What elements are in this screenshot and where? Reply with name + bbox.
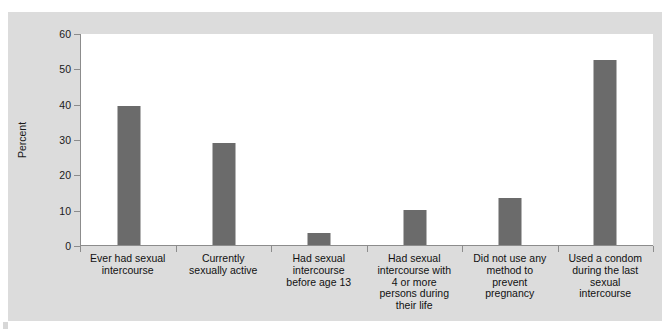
y-tick-label: 50 xyxy=(59,63,71,75)
y-tick-label: 60 xyxy=(59,28,71,40)
bar-slot xyxy=(462,34,557,245)
y-tick-label: 40 xyxy=(59,99,71,111)
x-axis-label: Ever had sexual intercourse xyxy=(80,253,176,312)
bar-slot xyxy=(176,34,271,245)
bar[interactable] xyxy=(212,143,235,245)
x-tick xyxy=(367,246,368,252)
bar[interactable] xyxy=(308,233,331,245)
y-tick-label: 10 xyxy=(59,205,71,217)
figure-panel: Percent 0102030405060 Ever had sexual in… xyxy=(8,12,662,321)
x-axis-label: Had sexual intercourse before age 13 xyxy=(271,253,367,312)
bar[interactable] xyxy=(594,60,617,245)
scan-artifact-mark xyxy=(3,322,8,329)
bar[interactable] xyxy=(498,198,521,245)
x-axis-label: Did not use any method to prevent pregna… xyxy=(462,253,558,312)
x-tick xyxy=(462,246,463,252)
y-tick-label: 20 xyxy=(59,169,71,181)
bar-series xyxy=(81,34,653,245)
x-tick xyxy=(176,246,177,252)
chart-page: Percent 0102030405060 Ever had sexual in… xyxy=(0,0,669,330)
bar[interactable] xyxy=(403,210,426,245)
x-axis-label-group: Ever had sexual intercourseCurrently sex… xyxy=(80,253,653,312)
x-axis: Ever had sexual intercourseCurrently sex… xyxy=(80,246,653,326)
bar-slot xyxy=(272,34,367,245)
bar[interactable] xyxy=(117,106,140,245)
x-axis-label: Had sexual intercourse with 4 or more pe… xyxy=(367,253,463,312)
x-tick xyxy=(653,246,654,252)
y-tick-label: 0 xyxy=(65,240,71,252)
bar-slot xyxy=(558,34,653,245)
x-tick xyxy=(558,246,559,252)
bar-slot xyxy=(367,34,462,245)
y-axis: Percent 0102030405060 xyxy=(8,12,80,248)
x-tick xyxy=(80,246,81,252)
y-axis-title: Percent xyxy=(16,122,28,158)
plot-area xyxy=(80,34,653,246)
y-tick-label: 30 xyxy=(59,134,71,146)
x-axis-label: Used a condom during the last sexual int… xyxy=(558,253,654,312)
bar-slot xyxy=(81,34,176,245)
x-tick xyxy=(271,246,272,252)
scan-margin-top xyxy=(0,0,669,11)
x-axis-label: Currently sexually active xyxy=(176,253,272,312)
